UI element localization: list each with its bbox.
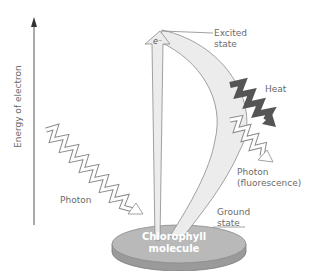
energy-axis-label: Energy of electron bbox=[13, 65, 23, 148]
fluorescence-label: Photon (fluorescence) bbox=[237, 167, 301, 189]
photon-label: Photon bbox=[60, 195, 91, 206]
excited-state-label: Excited state bbox=[214, 28, 247, 50]
chlorophyll-molecule-label: Chlorophyll molecule bbox=[134, 231, 214, 255]
ground-state-label: Ground state bbox=[217, 207, 250, 229]
decay-arrow bbox=[160, 30, 247, 237]
excitation-arrow bbox=[145, 31, 170, 240]
electron-label: e⁻ bbox=[153, 37, 162, 46]
heat-label: Heat bbox=[265, 84, 286, 95]
energy-axis bbox=[31, 17, 37, 225]
